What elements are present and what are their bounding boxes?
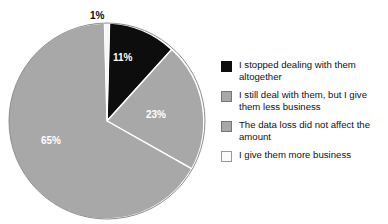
pie-chart-figure: 1% 11% 23% 65% I stopped dealing with th… [0, 0, 388, 224]
legend-item-no-effect: The data loss did not affect the amount [221, 119, 388, 143]
legend-swatch-icon [221, 121, 232, 132]
legend-swatch-icon [221, 91, 232, 102]
pie-label-stopped-dealing: 11% [113, 53, 132, 63]
legend-item-label: I stopped dealing with them altogether [239, 59, 387, 83]
legend-swatch-icon [221, 151, 232, 162]
pie-label-no-effect: 65% [41, 136, 61, 146]
legend-item-label: The data loss did not affect the amount [239, 119, 387, 143]
legend: I stopped dealing with them altogether I… [221, 59, 388, 168]
legend-item-label: I still deal with them, but I give them … [239, 89, 387, 113]
pie-label-more-business: 1% [90, 11, 104, 21]
legend-item-less-business: I still deal with them, but I give them … [221, 89, 388, 113]
pie-plot-area: 1% 11% 23% 65% [0, 0, 215, 224]
legend-swatch-icon [221, 61, 232, 72]
legend-item-label: I give them more business [239, 149, 351, 161]
pie-label-less-business: 23% [146, 110, 166, 120]
legend-item-stopped-dealing: I stopped dealing with them altogether [221, 59, 388, 83]
pie-svg [0, 0, 215, 224]
legend-item-more-business: I give them more business [221, 149, 388, 162]
